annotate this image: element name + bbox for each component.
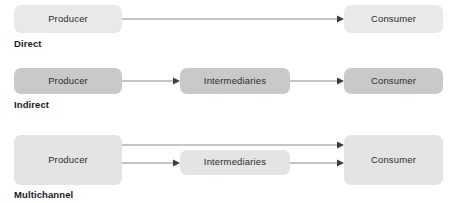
row-label-multichannel: Multichannel: [14, 189, 73, 200]
channel-row-multichannel: Producer Intermediaries Consumer Multich…: [0, 126, 454, 203]
node-multichannel-producer: Producer: [14, 135, 122, 185]
node-indirect-consumer: Consumer: [344, 68, 443, 94]
channel-row-direct: Producer Consumer Direct: [0, 0, 454, 58]
row-label-indirect: Indirect: [14, 99, 49, 110]
node-label: Intermediaries: [204, 76, 266, 86]
arrowhead-intermediaries-to-consumer: [337, 160, 344, 167]
node-indirect-intermediaries: Intermediaries: [180, 68, 290, 94]
node-label: Intermediaries: [204, 157, 266, 167]
node-label: Consumer: [371, 155, 416, 165]
node-label: Producer: [48, 76, 88, 86]
arrowhead-producer-to-intermediaries: [173, 78, 180, 85]
node-label: Producer: [48, 14, 88, 24]
node-direct-producer: Producer: [14, 5, 122, 33]
arrowhead-producer-to-intermediaries: [173, 160, 180, 167]
arrowhead-producer-to-consumer: [337, 142, 344, 149]
channel-diagram: Producer Consumer Direct Producer Interm…: [0, 0, 454, 203]
node-label: Consumer: [371, 76, 416, 86]
channel-row-indirect: Producer Intermediaries Consumer Indirec…: [0, 60, 454, 118]
node-indirect-producer: Producer: [14, 68, 122, 94]
node-direct-consumer: Consumer: [344, 5, 443, 33]
arrowhead-producer-to-consumer: [337, 16, 344, 23]
arrowhead-intermediaries-to-consumer: [337, 78, 344, 85]
node-multichannel-intermediaries: Intermediaries: [180, 150, 290, 175]
row-label-direct: Direct: [14, 38, 42, 49]
node-label: Producer: [48, 155, 88, 165]
node-multichannel-consumer: Consumer: [344, 135, 443, 185]
node-label: Consumer: [371, 14, 416, 24]
